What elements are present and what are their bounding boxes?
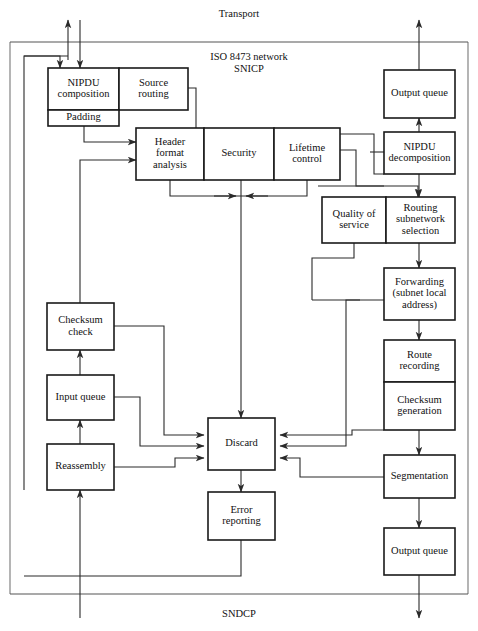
block-reassembly: Reassembly: [47, 444, 114, 490]
block-segmentation: Segmentation: [384, 455, 455, 498]
block-label-nipdu-decomposition: decomposition: [389, 152, 452, 163]
block-label-routing-subnetwork-selection: subnetwork: [396, 213, 446, 224]
block-label-error-reporting: reporting: [222, 515, 261, 526]
block-label-checksum-generation: Checksum: [397, 394, 441, 405]
block-padding: Padding: [48, 110, 119, 126]
block-label-security: Security: [222, 147, 258, 158]
block-nipdu-decomposition: NIPDUdecomposition: [384, 132, 455, 174]
protocol-label-line1: ISO 8473 network: [210, 51, 288, 62]
iso8473-network-layer-diagram: NIPDUcompositionSourceroutingPaddingHead…: [0, 0, 478, 631]
functional-blocks: NIPDUcompositionSourceroutingPaddingHead…: [47, 68, 455, 575]
block-label-forwarding: address): [402, 299, 437, 311]
block-label-routing-subnetwork-selection: selection: [402, 225, 440, 236]
block-label-nipdu-decomposition: NIPDU: [403, 141, 436, 152]
protocol-label-line2: SNICP: [234, 63, 264, 74]
block-label-forwarding: Forwarding: [395, 276, 445, 287]
block-label-discard: Discard: [225, 437, 258, 448]
block-discard: Discard: [208, 418, 275, 470]
block-routing-subnetwork-selection: Routingsubnetworkselection: [386, 197, 455, 243]
transport-boundary-label: Transport: [219, 8, 260, 19]
block-label-lifetime-control: Lifetime: [289, 142, 325, 153]
block-route-recording: Routerecording: [384, 340, 455, 382]
block-label-error-reporting: Error: [230, 504, 253, 515]
block-label-routing-subnetwork-selection: Routing: [404, 202, 439, 213]
block-label-checksum-check: check: [68, 326, 93, 337]
block-lifetime-control: Lifetimecontrol: [274, 128, 340, 180]
block-label-header-format-analysis: format: [156, 147, 184, 158]
block-label-route-recording: Route: [407, 349, 432, 360]
block-label-output-queue-bottom: Output queue: [391, 545, 448, 556]
block-label-nipdu-composition: composition: [58, 88, 111, 99]
sndcp-boundary-label: SNDCP: [222, 608, 256, 619]
block-label-header-format-analysis: Header: [155, 136, 186, 147]
block-header-format-analysis: Headerformatanalysis: [136, 128, 204, 180]
block-label-padding: Padding: [66, 111, 101, 122]
block-label-input-queue: Input queue: [56, 391, 106, 402]
block-output-queue-top: Output queue: [384, 70, 455, 118]
block-label-checksum-generation: generation: [397, 405, 442, 416]
block-checksum-check: Checksumcheck: [47, 303, 114, 350]
block-label-route-recording: recording: [399, 360, 440, 371]
block-label-reassembly: Reassembly: [55, 460, 106, 471]
block-nipdu-composition: NIPDUcomposition: [48, 68, 119, 110]
block-label-nipdu-composition: NIPDU: [67, 77, 100, 88]
block-security: Security: [204, 128, 274, 180]
block-label-header-format-analysis: analysis: [153, 159, 187, 170]
block-checksum-generation: Checksumgeneration: [384, 382, 455, 430]
block-label-source-routing: routing: [138, 88, 169, 99]
block-label-lifetime-control: control: [292, 153, 322, 164]
block-label-forwarding: (subnet local: [393, 287, 447, 299]
block-label-segmentation: Segmentation: [391, 470, 449, 481]
block-input-queue: Input queue: [47, 375, 114, 420]
block-source-routing: Sourcerouting: [119, 68, 188, 110]
block-label-checksum-check: Checksum: [58, 314, 102, 325]
block-label-source-routing: Source: [139, 77, 168, 88]
block-label-quality-of-service: service: [339, 219, 369, 230]
block-quality-of-service: Quality ofservice: [322, 197, 386, 243]
block-label-quality-of-service: Quality of: [333, 208, 376, 219]
block-forwarding: Forwarding(subnet localaddress): [384, 268, 455, 320]
block-output-queue-bottom: Output queue: [384, 528, 455, 575]
block-label-output-queue-top: Output queue: [391, 87, 448, 98]
block-error-reporting: Errorreporting: [208, 492, 275, 540]
